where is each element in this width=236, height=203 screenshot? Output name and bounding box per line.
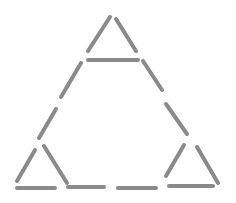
matchstick-right-middle (166, 104, 187, 134)
matchstick-top-right (116, 19, 136, 51)
matchstick-bottom-right-right (197, 147, 218, 183)
matchstick-canvas (0, 0, 236, 203)
matchstick-bottom-right-left (166, 145, 184, 176)
matchstick-left-middle (39, 109, 56, 138)
matchstick-left-upper (61, 63, 81, 97)
matchstick-bottom-left-left (17, 150, 35, 181)
matchstick-puzzle-diagram (0, 0, 236, 203)
matchstick-bottom-left-right (44, 146, 67, 183)
matchstick-top-left (88, 17, 110, 51)
matchstick-right-upper (143, 61, 162, 90)
